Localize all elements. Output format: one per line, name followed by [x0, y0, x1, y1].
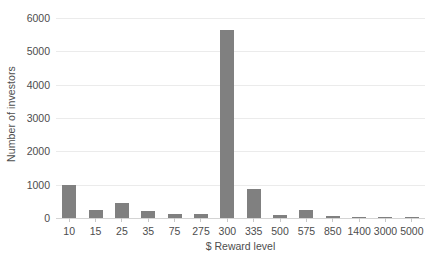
x-axis-tick: 335 — [241, 218, 267, 240]
tick-mark — [359, 218, 360, 222]
x-axis-tick-label: 75 — [169, 225, 181, 237]
bar[interactable] — [141, 211, 155, 218]
tick-mark — [411, 218, 412, 222]
x-axis-tick-label: 575 — [298, 225, 316, 237]
bar-slot — [241, 18, 267, 218]
bar-slot — [346, 18, 372, 218]
bar-slot — [267, 18, 293, 218]
tick-mark — [121, 218, 122, 222]
x-axis-tick: 1400 — [346, 218, 372, 240]
x-axis-tick-label: 335 — [245, 225, 263, 237]
x-axis-title: $ Reward level — [56, 240, 425, 252]
x-axis-tick: 5000 — [399, 218, 425, 240]
tick-mark — [95, 218, 96, 222]
tick-mark — [385, 218, 386, 222]
tick-mark — [148, 218, 149, 222]
x-axis-tick-label: 25 — [116, 225, 128, 237]
bar[interactable] — [115, 203, 129, 218]
x-axis-tick: 10 — [56, 218, 82, 240]
x-axis-tick: 3000 — [372, 218, 398, 240]
x-axis-tick-label: 1400 — [347, 225, 370, 237]
x-axis-tick: 35 — [135, 218, 161, 240]
y-axis-tick-label: 2000 — [27, 145, 50, 157]
bar-slot — [135, 18, 161, 218]
bar[interactable] — [89, 210, 103, 218]
x-axis-tick: 575 — [293, 218, 319, 240]
x-axis-tick: 850 — [320, 218, 346, 240]
x-axis-tick: 75 — [161, 218, 187, 240]
y-axis-tick-label: 3000 — [27, 112, 50, 124]
tick-mark — [306, 218, 307, 222]
x-axis-tick-label: 850 — [324, 225, 342, 237]
x-axis-tick-label: 15 — [90, 225, 102, 237]
bar[interactable] — [220, 30, 234, 218]
y-axis-tick-label: 5000 — [27, 45, 50, 57]
x-axis-tick-label: 275 — [192, 225, 210, 237]
tick-mark — [332, 218, 333, 222]
bar-slot — [293, 18, 319, 218]
y-axis-tick-label: 6000 — [27, 12, 50, 24]
bar[interactable] — [247, 189, 261, 218]
x-axis-tick: 300 — [214, 218, 240, 240]
x-axis-tick-label: 3000 — [374, 225, 397, 237]
x-axis-tick-label: 35 — [142, 225, 154, 237]
bar-slot — [56, 18, 82, 218]
bar[interactable] — [299, 210, 313, 218]
bar[interactable] — [62, 185, 76, 218]
tick-mark — [69, 218, 70, 222]
y-axis-tick-label: 1000 — [27, 179, 50, 191]
x-axis-tick: 25 — [109, 218, 135, 240]
x-axis-tick-label: 10 — [63, 225, 75, 237]
bar-slot — [399, 18, 425, 218]
bar-slot — [320, 18, 346, 218]
y-axis-title-text: Number of investors — [5, 66, 17, 162]
bar-slot — [214, 18, 240, 218]
x-axis-tick-labels: 1015253575275300335500575850140030005000 — [56, 218, 425, 240]
x-axis-tick: 15 — [82, 218, 108, 240]
tick-mark — [280, 218, 281, 222]
tick-mark — [174, 218, 175, 222]
y-axis-tick-label: 4000 — [27, 79, 50, 91]
x-axis-tick-label: 5000 — [400, 225, 423, 237]
bar-slot — [109, 18, 135, 218]
bar-slot — [188, 18, 214, 218]
tick-mark — [253, 218, 254, 222]
x-axis-tick: 275 — [188, 218, 214, 240]
x-axis-tick-label: 300 — [219, 225, 237, 237]
bar-chart: Number of investors 01000200030004000500… — [0, 0, 440, 259]
bar-slot — [161, 18, 187, 218]
y-axis-tick-labels: 0100020003000400050006000 — [18, 18, 54, 218]
x-axis-tick: 500 — [267, 218, 293, 240]
bar-series — [56, 18, 425, 218]
tick-mark — [227, 218, 228, 222]
tick-mark — [200, 218, 201, 222]
x-axis-tick-label: 500 — [271, 225, 289, 237]
y-axis-tick-label: 0 — [44, 212, 50, 224]
bar-slot — [372, 18, 398, 218]
plot-area — [56, 18, 425, 218]
bar-slot — [82, 18, 108, 218]
